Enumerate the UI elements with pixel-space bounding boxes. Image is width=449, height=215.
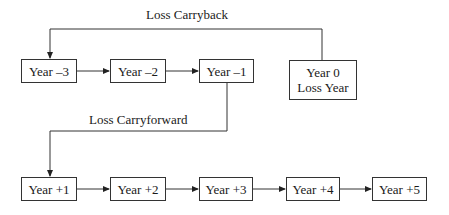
year-minus-3-label: Year –3 — [29, 64, 69, 79]
year-plus-4-label: Year +4 — [292, 182, 333, 197]
year-plus-5-label: Year +5 — [379, 182, 420, 197]
year-minus-1-box: Year –1 — [199, 59, 254, 83]
year-plus-2-label: Year +2 — [117, 182, 158, 197]
year-minus-2-box: Year –2 — [110, 59, 166, 83]
year-plus-4-box: Year +4 — [286, 177, 340, 201]
carryforward-arrow — [50, 83, 227, 176]
year-plus-3-label: Year +3 — [205, 182, 246, 197]
year-minus-3-box: Year –3 — [21, 59, 77, 83]
year-plus-1-box: Year +1 — [21, 177, 77, 201]
carryback-label: Loss Carryback — [146, 7, 228, 23]
year-plus-5-box: Year +5 — [372, 177, 427, 201]
year-minus-2-label: Year –2 — [118, 64, 158, 79]
loss-year-line2: Loss Year — [297, 80, 348, 95]
carryback-arrow — [50, 29, 322, 60]
year-minus-1-label: Year –1 — [206, 64, 246, 79]
year-plus-1-label: Year +1 — [28, 182, 69, 197]
loss-year-box: Year 0 Loss Year — [289, 60, 357, 100]
carryforward-label: Loss Carryforward — [89, 112, 188, 128]
loss-year-line1: Year 0 — [306, 65, 340, 80]
year-plus-3-box: Year +3 — [199, 177, 253, 201]
year-plus-2-box: Year +2 — [110, 177, 166, 201]
